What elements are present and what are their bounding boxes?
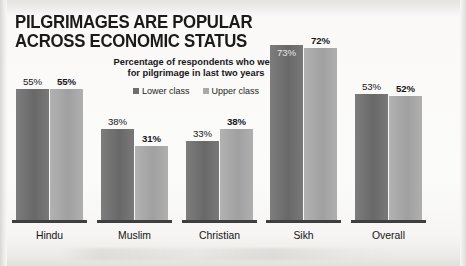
bar-pair: 33%38% [186,129,253,220]
plot-area: 55%55%Hindu38%31%Muslim33%38%Christian73… [0,0,466,266]
category-label-hindu: Hindu [16,230,83,241]
category-label-christian: Christian [186,230,253,241]
bar-overall-lower-class[interactable]: 53% [355,94,388,220]
bar-pair: 38%31% [101,129,168,220]
bar-value-label: 55% [23,77,42,87]
bar-value-label: 52% [396,84,415,94]
bar-value-label: 38% [227,117,246,127]
category-label-sikh: Sikh [270,230,337,241]
bar-hindu-lower-class[interactable]: 55% [16,89,49,220]
category-label-muslim: Muslim [101,230,168,241]
bar-value-label: 55% [57,77,76,87]
bar-value-label: 73% [277,48,296,58]
bar-overall-upper-class[interactable]: 52% [389,96,422,220]
bar-christian-lower-class[interactable]: 33% [186,141,219,220]
bar-sikh-upper-class[interactable]: 72% [304,48,337,220]
bar-hindu-upper-class[interactable]: 55% [50,89,83,220]
chart-page: PILGRIMAGES ARE POPULAR ACROSS ECONOMIC … [0,0,466,266]
paper-smudge [60,248,400,260]
group-baseline [182,220,257,223]
bar-pair: 55%55% [16,89,83,220]
group-baseline [97,220,172,223]
bar-value-label: 33% [193,129,212,139]
group-baseline [351,220,426,223]
bar-value-label: 53% [362,82,381,92]
bar-pair: 73%72% [270,45,337,220]
bar-pair: 53%52% [355,94,422,220]
bar-christian-upper-class[interactable]: 38% [220,129,253,220]
bar-muslim-lower-class[interactable]: 38% [101,129,134,220]
bar-muslim-upper-class[interactable]: 31% [135,146,168,220]
bar-sikh-lower-class[interactable]: 73% [270,45,303,220]
bar-value-label: 38% [108,117,127,127]
group-baseline [266,220,341,223]
category-label-overall: Overall [355,230,422,241]
bar-value-label: 72% [311,36,330,46]
bar-value-label: 31% [142,134,161,144]
group-baseline [12,220,87,223]
